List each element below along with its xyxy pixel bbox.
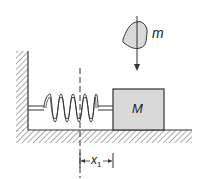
falling-mass — [123, 16, 147, 71]
block-mass-label: M — [132, 101, 143, 116]
falling-mass-label: m — [152, 25, 164, 41]
arrow-down-icon — [134, 64, 140, 71]
wall — [16, 51, 28, 131]
displacement-label: x1 — [91, 153, 101, 169]
displacement-subscript: 1 — [97, 160, 101, 169]
spring — [28, 94, 113, 122]
floor — [16, 130, 192, 143]
diagram: m M x1 — [0, 0, 200, 179]
